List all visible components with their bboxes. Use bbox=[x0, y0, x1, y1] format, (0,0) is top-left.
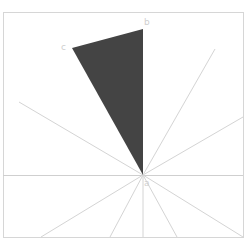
ray-line bbox=[143, 117, 243, 175]
vertex-label-a: a bbox=[144, 178, 150, 188]
ray-line bbox=[143, 49, 215, 175]
vertex-label-c: c bbox=[61, 42, 66, 52]
ray-line bbox=[143, 175, 243, 237]
geometry-diagram: abc bbox=[0, 0, 247, 245]
ray-line bbox=[41, 175, 143, 237]
vertex-label-b: b bbox=[144, 17, 150, 27]
ray-line bbox=[110, 175, 143, 237]
shaded-triangle-abc bbox=[72, 29, 143, 175]
